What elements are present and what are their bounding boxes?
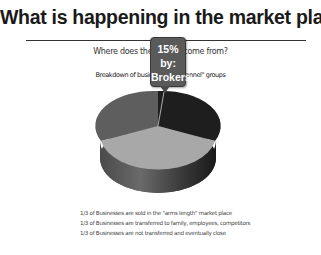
- note-item: 1/3 of Businesses are sold in the "arms …: [80, 208, 250, 218]
- callout-line-1: 15% by:: [151, 42, 185, 70]
- broker-callout: 15% by: Brokers: [150, 37, 186, 87]
- note-item: 1/3 of Businesses are not transferred an…: [80, 228, 250, 238]
- callout-pointer: [160, 86, 170, 93]
- callout-line-2: Brokers: [151, 70, 185, 84]
- notes-list: 1/3 of Businesses are sold in the "arms …: [80, 208, 250, 238]
- note-item: 1/3 of Businesses are transferred to fam…: [80, 218, 250, 228]
